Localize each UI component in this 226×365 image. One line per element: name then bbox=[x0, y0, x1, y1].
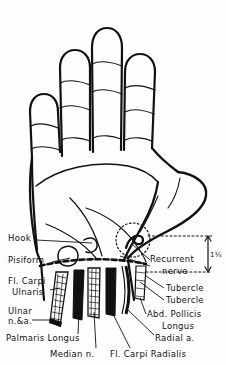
palmaris-longus-tendon bbox=[73, 270, 84, 320]
ring-finger-crease-mid bbox=[60, 106, 90, 110]
palm-distal-crease bbox=[36, 164, 158, 186]
thumb-ip-crease bbox=[168, 178, 180, 208]
label-abd-pollicis-line1: Abd. Pollicis bbox=[147, 309, 201, 319]
index-finger-outline bbox=[124, 54, 155, 150]
label-pisiform: Pisiform bbox=[8, 255, 44, 265]
median-nerve-band bbox=[88, 268, 100, 318]
ring-finger-crease-proximal bbox=[61, 138, 90, 141]
label-tubercle-1: Tubercle bbox=[166, 283, 204, 293]
index-finger-crease-proximal bbox=[125, 138, 152, 141]
flexor-carpi-radialis-tendon bbox=[106, 268, 116, 316]
leader-abd-pollicis bbox=[140, 298, 146, 314]
radial-artery-vessel bbox=[126, 266, 129, 314]
radial-artery-inner bbox=[122, 266, 125, 314]
hook-of-hamate-outline bbox=[84, 238, 97, 253]
label-flexor-carpi-ulnaris-line1: Fl. Carpi bbox=[8, 276, 46, 286]
label-tubercle-2: Tubercle bbox=[166, 295, 204, 305]
little-finger-crease-distal bbox=[31, 124, 58, 128]
pisiform-outline bbox=[58, 246, 78, 266]
middle-finger-crease-distal bbox=[92, 62, 122, 66]
label-flexor-carpi-ulnaris-line2: Ulnaris bbox=[12, 287, 44, 297]
little-finger-crease-proximal bbox=[31, 147, 60, 150]
middle-finger-crease-mid bbox=[92, 90, 122, 94]
wrist-tendons-group bbox=[49, 266, 146, 327]
middle-finger-crease-proximal bbox=[93, 136, 121, 139]
leader-tubercle-1 bbox=[146, 276, 164, 288]
distal-wrist-crease-dashed bbox=[40, 259, 146, 266]
label-median-nerve: Median n. bbox=[50, 349, 94, 359]
index-finger-crease-distal bbox=[125, 86, 155, 90]
dimension-label: 1¼ bbox=[210, 250, 222, 260]
flexor-carpi-ulnaris-tendon bbox=[49, 272, 68, 327]
label-abd-pollicis-line2: Longus bbox=[162, 321, 194, 331]
abd-pollicis-longus-tendon bbox=[135, 266, 146, 300]
label-flexor-carpi-radialis: Fl. Carpi Radialis bbox=[110, 349, 186, 359]
ring-finger-crease-distal bbox=[60, 81, 90, 85]
label-radial-artery: Radial a. bbox=[155, 333, 195, 343]
label-ulnar-line2: n.&a. bbox=[8, 316, 32, 326]
leader-fl-carpi-radialis bbox=[112, 312, 130, 348]
label-recurrent-nerve-line2: nerve bbox=[162, 266, 188, 276]
label-palmaris-longus: Palmaris Longus bbox=[6, 333, 80, 343]
label-ulnar-line1: Ulnar bbox=[8, 306, 32, 316]
index-finger-crease-mid bbox=[125, 110, 154, 114]
thumb-base-outline bbox=[124, 182, 158, 260]
label-recurrent-nerve-line1: Recurrent bbox=[150, 254, 194, 264]
label-hook: Hook bbox=[8, 233, 31, 243]
